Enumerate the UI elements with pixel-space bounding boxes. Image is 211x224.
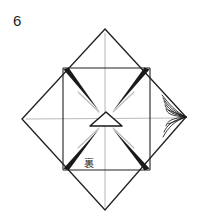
crease-diagonal-nw — [78, 92, 99, 112]
origami-step-figure: 6 — [0, 0, 211, 224]
back-side-indicator: 裏 — [83, 158, 94, 170]
wedge-top-right — [113, 68, 150, 112]
origami-diagram — [0, 0, 211, 224]
crease-diagonal-sw — [78, 128, 99, 148]
wedge-top-left — [64, 68, 100, 112]
crease-diagonal-se — [113, 128, 134, 148]
crease-diagonal-ne — [113, 92, 134, 112]
wedge-bottom-right — [113, 129, 150, 171]
